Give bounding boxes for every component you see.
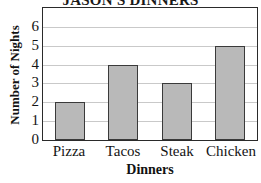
bar-slot — [150, 8, 204, 140]
bar-slot — [97, 8, 151, 140]
y-axis-title: Number of Nights — [8, 9, 22, 141]
plot-area — [42, 7, 258, 141]
y-axis-tick-labels: 0123456 — [24, 7, 39, 141]
y-tick-label: 4 — [24, 56, 39, 71]
bars-layer — [43, 8, 257, 140]
bar-steak[interactable] — [162, 83, 192, 140]
bar-slot — [204, 8, 258, 140]
bar-slot — [43, 8, 97, 140]
y-tick-label: 0 — [24, 132, 39, 147]
x-axis-title: Dinners — [42, 162, 258, 178]
bar-chicken[interactable] — [215, 46, 245, 140]
x-axis-tick-labels: PizzaTacosSteakChicken — [42, 143, 258, 161]
bar-pizza[interactable] — [55, 102, 85, 140]
y-tick-label: 2 — [24, 94, 39, 109]
x-tick-label: Steak — [150, 143, 204, 161]
y-tick-label: 5 — [24, 37, 39, 52]
x-tick-label: Pizza — [42, 143, 96, 161]
bar-tacos[interactable] — [108, 65, 138, 140]
y-tick-label: 6 — [24, 18, 39, 33]
bar-chart-figure: JASON'S DINNERS Number of Nights 0123456… — [0, 0, 261, 183]
y-tick-label: 1 — [24, 113, 39, 128]
y-tick-label: 3 — [24, 75, 39, 90]
x-tick-label: Chicken — [204, 143, 258, 161]
x-tick-label: Tacos — [96, 143, 150, 161]
